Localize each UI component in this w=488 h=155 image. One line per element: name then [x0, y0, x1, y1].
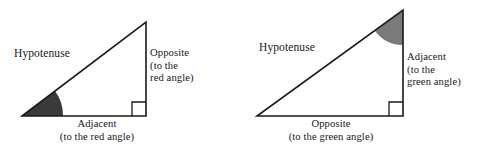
green-angle-triangle-group [257, 10, 403, 116]
green-angle-right-angle-marker [389, 102, 403, 116]
red-triangle-opposite-label: Opposite (to the red angle) [150, 47, 194, 85]
red-angle-triangle-group [22, 22, 146, 116]
red-triangle-hypotenuse-label: Hypotenuse [14, 47, 70, 61]
green-triangle-adjacent-label: Adjacent (to the green angle) [407, 51, 461, 89]
red-angle-triangle-outline [22, 22, 146, 116]
trigonometry-figure: Hypotenuse Opposite (to the red angle) A… [0, 0, 488, 155]
red-triangle-adjacent-label: Adjacent (to the red angle) [25, 118, 169, 143]
red-angle-right-angle-marker [132, 102, 146, 116]
green-triangle-opposite-label: Opposite (to the green angle) [255, 118, 407, 143]
green-triangle-hypotenuse-label: Hypotenuse [259, 41, 315, 55]
green-angle-triangle-outline [257, 10, 403, 116]
